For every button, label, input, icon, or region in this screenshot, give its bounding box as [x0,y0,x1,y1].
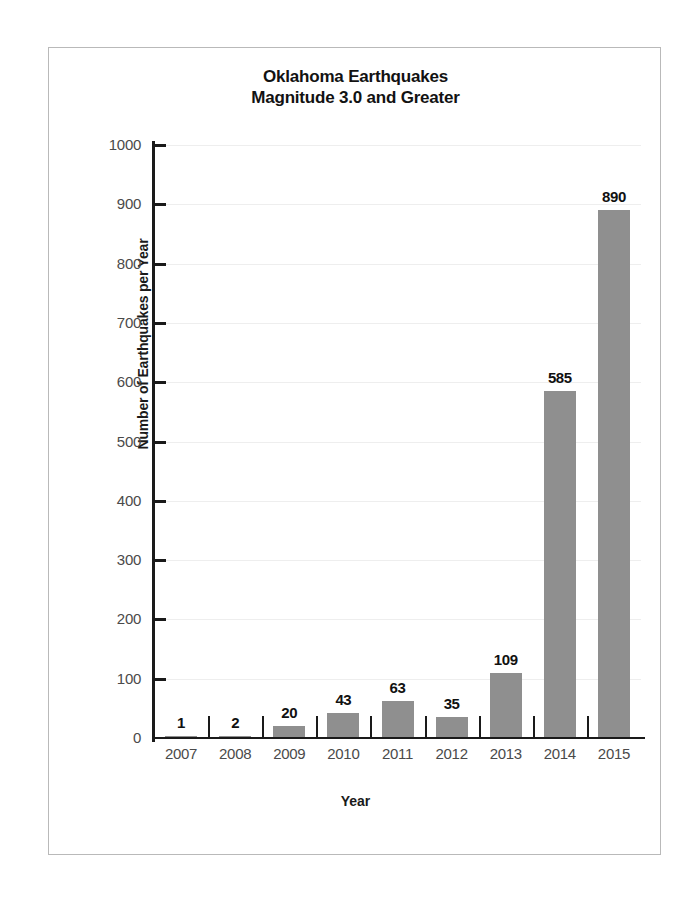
gridline-900 [154,204,641,205]
bar-value-label-2013: 109 [471,651,541,668]
y-tick-mark-800 [154,263,166,266]
x-tick-label-2014: 2014 [530,745,590,762]
x-tick-mark-5 [425,716,427,738]
y-tick-label-100: 100 [71,670,141,687]
x-tick-label-2013: 2013 [476,745,536,762]
y-tick-label-700: 700 [71,314,141,331]
bar-2013 [490,673,522,738]
y-tick-mark-100 [154,678,166,681]
x-tick-label-2008: 2008 [205,745,265,762]
bar-2015 [598,210,630,738]
bar-2010 [327,713,359,738]
x-tick-mark-8 [587,716,589,738]
y-tick-mark-400 [154,500,166,503]
x-tick-label-2007: 2007 [151,745,211,762]
y-tick-label-500: 500 [71,433,141,450]
bar-2011 [382,701,414,738]
bar-value-label-2015: 890 [579,188,649,205]
y-tick-label-1000: 1000 [71,136,141,153]
bar-value-label-2014: 585 [525,369,595,386]
y-tick-label-800: 800 [71,255,141,272]
x-tick-mark-4 [370,716,372,738]
y-tick-label-400: 400 [71,492,141,509]
chart-frame: Oklahoma Earthquakes Magnitude 3.0 and G… [48,47,661,855]
y-tick-mark-500 [154,441,166,444]
y-tick-label-200: 200 [71,610,141,627]
y-tick-label-900: 900 [71,195,141,212]
x-tick-label-2010: 2010 [313,745,373,762]
gridline-700 [154,323,641,324]
y-tick-label-0: 0 [71,729,141,746]
bar-2012 [436,717,468,738]
chart-title-line-1: Oklahoma Earthquakes [263,67,448,86]
chart-title-line-2: Magnitude 3.0 and Greater [49,87,662,108]
x-axis-title: Year [49,793,662,809]
gridline-1000 [154,145,641,146]
y-tick-mark-300 [154,559,166,562]
y-tick-mark-600 [154,381,166,384]
x-tick-label-2011: 2011 [368,745,428,762]
y-tick-mark-700 [154,322,166,325]
bar-value-label-2012: 35 [417,695,487,712]
y-tick-mark-200 [154,618,166,621]
x-tick-label-2012: 2012 [422,745,482,762]
x-tick-mark-6 [479,716,481,738]
y-tick-label-600: 600 [71,373,141,390]
x-tick-label-2015: 2015 [584,745,644,762]
bar-2014 [544,391,576,738]
chart-title: Oklahoma Earthquakes Magnitude 3.0 and G… [49,66,662,108]
y-tick-label-300: 300 [71,551,141,568]
x-tick-mark-7 [533,716,535,738]
plot-area [154,145,641,738]
bar-value-label-2011: 63 [363,679,433,696]
gridline-800 [154,264,641,265]
x-tick-label-2009: 2009 [259,745,319,762]
y-tick-mark-1000 [154,144,166,147]
x-axis-line [152,737,645,739]
y-tick-mark-900 [154,203,166,206]
